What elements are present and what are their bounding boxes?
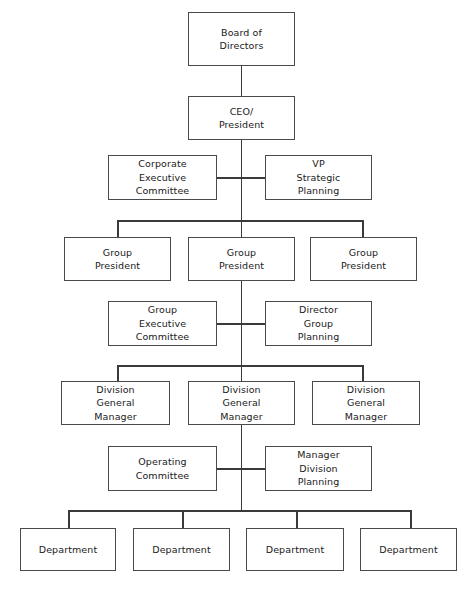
drop-division-manager-1: [117, 365, 119, 381]
node-label-line: Manager: [345, 410, 387, 424]
node-manager-division-planning[interactable]: Manager Division Planning: [265, 446, 372, 491]
node-label-line: Planning: [298, 330, 340, 344]
node-ceo-president[interactable]: CEO/ President: [188, 96, 295, 140]
node-label-line: Division: [299, 462, 337, 476]
connector-group-staff-bar: [217, 323, 265, 325]
node-label-line: President: [219, 118, 264, 132]
node-director-group-planning[interactable]: Director Group Planning: [265, 301, 372, 346]
node-label-line: General: [222, 396, 260, 410]
node-label-line: Department: [266, 543, 325, 557]
drop-department-3: [296, 510, 298, 528]
node-label-line: Group: [349, 246, 378, 260]
node-board-of-directors[interactable]: Board of Directors: [188, 12, 295, 66]
node-label-line: Executive: [139, 171, 186, 185]
node-vp-strategic-planning[interactable]: VP Strategic Planning: [265, 155, 372, 200]
node-department-1[interactable]: Department: [20, 528, 116, 571]
node-label-line: President: [219, 259, 264, 273]
node-label-line: Executive: [139, 317, 186, 331]
node-label-line: Strategic: [297, 171, 341, 185]
node-department-2[interactable]: Department: [133, 528, 230, 571]
connector-board-to-ceo: [241, 66, 243, 96]
node-label-line: Department: [39, 543, 98, 557]
node-label-line: Manager: [220, 410, 262, 424]
node-label-line: General: [347, 396, 385, 410]
node-label-line: Operating: [138, 455, 186, 469]
node-group-president-2[interactable]: Group President: [188, 237, 295, 281]
node-label-line: Committee: [136, 469, 190, 483]
node-corporate-executive-committee[interactable]: Corporate Executive Committee: [108, 155, 217, 200]
drop-department-4: [410, 510, 412, 528]
node-label-line: Planning: [298, 184, 340, 198]
node-label-line: Group: [227, 246, 256, 260]
node-label-line: President: [341, 259, 386, 273]
node-label-line: Directors: [219, 39, 263, 53]
drop-group-president-2: [241, 220, 243, 237]
drop-group-president-3: [362, 220, 364, 237]
node-group-president-3[interactable]: Group President: [310, 237, 417, 281]
node-label-line: President: [95, 259, 140, 273]
drop-division-manager-3: [362, 365, 364, 381]
node-label-line: CEO/: [230, 105, 254, 119]
node-label-line: Group: [304, 317, 333, 331]
node-label-line: Committee: [136, 330, 190, 344]
node-label-line: Division: [96, 383, 134, 397]
node-division-general-manager-1[interactable]: Division General Manager: [61, 381, 170, 425]
bus-departments: [68, 510, 411, 512]
node-label-line: Manager: [94, 410, 136, 424]
connector-ceo-to-group-bus: [241, 140, 243, 221]
node-label-line: VP: [312, 157, 324, 171]
node-label-line: Division: [222, 383, 260, 397]
node-label-line: Committee: [136, 184, 190, 198]
node-label-line: Director: [299, 303, 338, 317]
connector-division-staff-bar: [217, 468, 265, 470]
drop-department-2: [182, 510, 184, 528]
node-label-line: Division: [347, 383, 385, 397]
node-label-line: Group: [103, 246, 132, 260]
node-label-line: Planning: [298, 475, 340, 489]
node-label-line: Department: [152, 543, 211, 557]
org-chart-canvas: Board of Directors CEO/ President Corpor…: [0, 0, 476, 603]
node-label-line: Corporate: [138, 157, 186, 171]
node-label-line: Group: [148, 303, 177, 317]
connector-corporate-staff-bar: [217, 177, 265, 179]
node-group-executive-committee[interactable]: Group Executive Committee: [108, 301, 217, 346]
drop-department-1: [68, 510, 70, 528]
node-group-president-1[interactable]: Group President: [64, 237, 171, 281]
drop-division-manager-2: [241, 365, 243, 381]
node-label-line: Manager: [297, 448, 339, 462]
node-operating-committee[interactable]: Operating Committee: [108, 446, 217, 491]
node-label-line: Board of: [221, 26, 262, 40]
node-label-line: General: [96, 396, 134, 410]
node-label-line: Department: [379, 543, 438, 557]
drop-group-president-1: [117, 220, 119, 237]
node-department-3[interactable]: Department: [246, 528, 344, 571]
node-division-general-manager-2[interactable]: Division General Manager: [188, 381, 295, 425]
node-department-4[interactable]: Department: [360, 528, 457, 571]
node-division-general-manager-3[interactable]: Division General Manager: [312, 381, 420, 425]
